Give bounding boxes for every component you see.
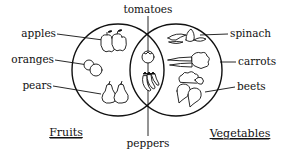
label-apples: apples: [21, 27, 56, 39]
label-beets: beets: [237, 80, 266, 92]
orange-pair-icon: [84, 60, 102, 76]
venn-diagram: tomatoes peppers apples oranges pears sp…: [0, 0, 286, 158]
apples-leader-line: [57, 34, 103, 40]
pears-leader-line: [53, 86, 101, 94]
label-oranges: oranges: [11, 53, 54, 65]
tomato-icon: [142, 51, 154, 63]
carrot-pair-icon: [168, 52, 209, 68]
label-fruits: Fruits: [49, 126, 83, 139]
pear-pair-icon: [102, 81, 128, 103]
label-peppers: peppers: [127, 137, 170, 149]
label-tomatoes: tomatoes: [124, 3, 173, 15]
apple-pair-icon: [101, 30, 127, 52]
label-carrots: carrots: [238, 55, 276, 67]
label-vegetables: Vegetables: [209, 127, 271, 140]
label-pears: pears: [22, 79, 52, 91]
beet-pair-icon: [177, 72, 204, 107]
beets-leader-line: [205, 87, 235, 92]
pepper-bunch-icon: [143, 72, 160, 91]
oranges-leader-line: [55, 60, 88, 65]
label-spinach: spinach: [230, 27, 271, 39]
